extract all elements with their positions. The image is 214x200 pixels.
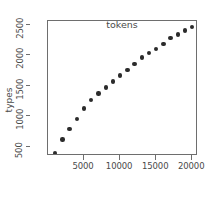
data-point — [125, 68, 129, 72]
data-points-layer — [48, 21, 196, 154]
data-point — [161, 42, 165, 46]
y-axis-tick-label-text: 1000 — [16, 109, 25, 130]
x-axis: 5000100001500020000 — [0, 155, 214, 200]
data-point — [190, 25, 194, 29]
data-point — [111, 79, 115, 83]
data-point — [168, 36, 172, 40]
data-point — [183, 28, 187, 32]
data-point — [140, 55, 144, 59]
x-axis-tick-label: 10000 — [106, 162, 133, 171]
y-axis-title: types — [5, 88, 14, 113]
y-axis-tick-label: 2000 — [20, 58, 29, 79]
x-axis-title: tokens — [106, 20, 138, 30]
x-axis-tick-label: 15000 — [142, 162, 169, 171]
x-axis-tick-mark — [155, 155, 156, 160]
scatter-plot-figure: 5001000150020002500 types 50001000015000… — [0, 0, 214, 200]
plot-panel — [47, 20, 197, 155]
y-axis-tick-mark — [26, 24, 30, 25]
x-axis-tick-mark — [119, 155, 120, 160]
data-point — [53, 151, 57, 154]
x-axis-tick-mark — [191, 155, 192, 160]
x-axis-tick-label: 5000 — [72, 162, 93, 171]
data-point — [176, 32, 180, 36]
x-axis-tick-mark — [83, 155, 84, 160]
data-point — [118, 73, 122, 77]
data-point — [89, 98, 93, 102]
data-point — [104, 85, 108, 89]
y-axis-tick-label: 2500 — [20, 28, 29, 49]
y-axis-tick-label: 1000 — [20, 120, 29, 141]
data-point — [147, 51, 151, 55]
data-point — [60, 137, 64, 141]
y-axis-tick-mark — [26, 115, 30, 116]
data-point — [96, 91, 100, 95]
y-axis-tick-mark — [26, 146, 30, 147]
y-axis-tick-label-text: 2500 — [16, 17, 25, 38]
data-point — [154, 47, 158, 51]
y-axis-tick-mark — [26, 54, 30, 55]
y-axis-tick-label-text: 1500 — [16, 78, 25, 99]
data-point — [82, 106, 86, 110]
y-axis-tick-mark — [26, 85, 30, 86]
x-axis-tick-label: 20000 — [178, 162, 205, 171]
y-axis-tick-label: 1500 — [20, 89, 29, 110]
data-point — [75, 117, 79, 121]
data-point — [67, 127, 71, 131]
data-point — [132, 62, 136, 66]
y-axis-tick-label-text: 2000 — [16, 48, 25, 69]
